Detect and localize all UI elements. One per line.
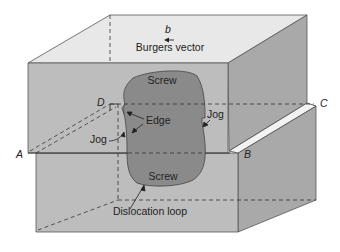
- edge-label: Edge: [146, 114, 171, 126]
- dislocation-diagram: b Burgers vector Screw Edge Jog Jog Scre…: [0, 0, 340, 252]
- jog-left-label: Jog: [90, 133, 107, 145]
- jog-right-label: Jog: [207, 108, 224, 120]
- corner-a-label: A: [15, 148, 23, 160]
- burgers-symbol-label: b: [165, 23, 171, 35]
- corner-d-label: D: [97, 96, 105, 108]
- burgers-vector-label: Burgers vector: [136, 41, 205, 53]
- corner-b-label: B: [244, 148, 251, 160]
- screw-top-label: Screw: [147, 74, 177, 86]
- dislocation-loop-label: Dislocation loop: [113, 205, 187, 217]
- screw-bottom-label: Screw: [148, 170, 178, 182]
- corner-c-label: C: [320, 97, 328, 109]
- dislocation-loop-shape: [124, 71, 206, 186]
